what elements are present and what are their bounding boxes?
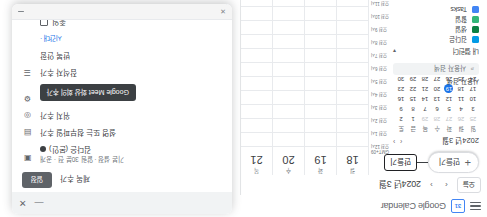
my-calendars-header[interactable]: 내 캘린더 ▾: [393, 47, 479, 57]
day-column[interactable]: 화19: [305, 0, 337, 175]
next-period-icon[interactable]: ›: [427, 181, 436, 190]
calendar-checkbox[interactable]: [472, 37, 479, 44]
mini-cal-dow: 수: [431, 124, 443, 134]
mini-cal-dow: 목: [419, 124, 431, 134]
day-header[interactable]: 월18: [337, 153, 368, 175]
calendar-app: 31 Google Calendar 오늘 ‹ › 2024년 3월 + 만들기…: [240, 0, 487, 217]
day-header[interactable]: 수20: [273, 153, 304, 175]
dialog-row-owner[interactable]: 기본 설정 · 알림 30분 전 · 공개 김다은 (본인) ▣: [22, 144, 222, 164]
create-button-label: 만들기: [439, 157, 460, 168]
mini-cal-day[interactable]: 6: [431, 104, 443, 114]
dialog-row-repeat[interactable]: 반복 안함: [22, 51, 222, 62]
day-header[interactable]: 화19: [305, 153, 336, 175]
mini-cal-day[interactable]: 29: [407, 74, 419, 84]
dialog-row-description[interactable]: 설명 또는 첨부파일 추가 ▤: [22, 127, 222, 138]
mini-cal-day[interactable]: 4: [455, 104, 467, 114]
people-search-heading: 사용자 검색: [447, 77, 479, 87]
mini-cal-day[interactable]: 25: [467, 114, 479, 124]
mini-cal-day[interactable]: 15: [407, 94, 419, 104]
mini-cal-day[interactable]: 23: [395, 84, 407, 94]
mini-cal-day[interactable]: 13: [431, 94, 443, 104]
hamburger-icon[interactable]: [470, 202, 481, 211]
dialog-row-location[interactable]: 위치 추가 ◎: [22, 110, 222, 121]
event-title-input[interactable]: 제목 추가: [60, 175, 90, 186]
mini-cal-day[interactable]: 22: [407, 84, 419, 94]
mini-cal-day[interactable]: 27: [443, 114, 455, 124]
dialog-row-meet[interactable]: Google Meet 화상 회의 추가 ⚙: [22, 85, 222, 105]
dialog-row-timezone[interactable]: 시간대 ·: [22, 34, 222, 45]
day-of-week: 화: [305, 166, 336, 175]
mini-cal-day[interactable]: 28: [431, 114, 443, 124]
google-meet-button[interactable]: Google Meet 화상 회의 추가: [40, 85, 136, 102]
mini-cal-day[interactable]: 26: [455, 114, 467, 124]
mini-prev-icon[interactable]: ‹: [400, 138, 402, 145]
calendar-checkbox[interactable]: [472, 7, 479, 14]
people-search-input[interactable]: ⌕ 사용자 검색: [393, 63, 479, 75]
location-label: 위치 추가: [40, 110, 70, 121]
footer-minimize-icon[interactable]: [18, 11, 24, 13]
close-icon[interactable]: ✕: [19, 199, 27, 208]
calendar-subtoolbar: 오늘 ‹ › 2024년 3월: [240, 175, 487, 195]
time-label: 오전 8시: [371, 40, 387, 46]
owner-sub-text: 기본 설정 · 알림 30분 전 · 공개: [40, 155, 124, 164]
mini-next-icon[interactable]: ›: [393, 138, 395, 145]
mini-cal-day[interactable]: 12: [443, 94, 455, 104]
calendar-list-item[interactable]: 김다은: [393, 35, 479, 45]
mini-cal-day[interactable]: 2: [395, 114, 407, 124]
mini-cal-day[interactable]: 5: [443, 104, 455, 114]
calendar-topbar: 31 Google Calendar: [240, 195, 487, 217]
event-type-tab[interactable]: 일정: [22, 172, 52, 188]
mini-cal-day[interactable]: 28: [419, 74, 431, 84]
calendar-list-item[interactable]: 생일: [393, 25, 479, 35]
mini-cal-dow: 화: [443, 124, 455, 134]
minimize-icon[interactable]: —: [35, 199, 44, 208]
mini-cal-day[interactable]: 3: [467, 104, 479, 114]
calendar-name: 김다은: [449, 35, 467, 45]
day-number: 18: [337, 153, 368, 166]
mini-cal-day[interactable]: 14: [419, 94, 431, 104]
day-of-week: 월: [337, 166, 368, 175]
today-button[interactable]: 오늘: [457, 177, 481, 193]
calendar-list-item[interactable]: 할일: [393, 15, 479, 25]
mini-cal-day[interactable]: 8: [407, 104, 419, 114]
dialog-row-guests[interactable]: 참석자 추가 ☰: [22, 68, 222, 79]
mini-cal-day[interactable]: 21: [419, 84, 431, 94]
owner-name: 김다은 (본인): [49, 144, 91, 155]
day-column[interactable]: 월18: [337, 0, 369, 175]
location-icon: ◎: [22, 110, 33, 121]
mini-cal-day[interactable]: 11: [455, 94, 467, 104]
create-button[interactable]: + 만들기: [428, 152, 479, 173]
time-label: 오전 6시: [371, 66, 387, 72]
day-columns[interactable]: 월18화19수20목21: [241, 0, 369, 175]
calendar-checkbox[interactable]: [472, 17, 479, 24]
calendar-logo-icon: 31: [451, 199, 465, 213]
chevron-down-icon: ▾: [393, 49, 396, 56]
create-button-group: + 만들기 만들기: [384, 152, 479, 173]
dialog-header: — ✕: [12, 192, 232, 214]
radio-selected-icon[interactable]: [40, 147, 46, 153]
prev-period-icon[interactable]: ‹: [442, 181, 451, 190]
mini-cal-day[interactable]: 29: [419, 114, 431, 124]
day-column[interactable]: 수20: [273, 0, 305, 175]
calendar-checkbox[interactable]: [472, 27, 479, 34]
mini-cal-day[interactable]: 16: [395, 94, 407, 104]
repeat-label: 반복 안함: [40, 51, 70, 62]
timezone-link[interactable]: 시간대 ·: [40, 35, 62, 45]
mini-cal-day[interactable]: 30: [395, 74, 407, 84]
mini-cal-day[interactable]: 7: [419, 104, 431, 114]
mini-cal-day[interactable]: 9: [395, 104, 407, 114]
mini-cal-day[interactable]: 1: [407, 114, 419, 124]
mini-cal-day[interactable]: 20: [431, 84, 443, 94]
footer-close-icon[interactable]: ✕: [220, 8, 226, 16]
people-icon: ☰: [22, 68, 33, 79]
mini-cal-day[interactable]: 27: [431, 74, 443, 84]
owner-radio-line[interactable]: 김다은 (본인): [40, 144, 124, 155]
day-column[interactable]: 목21: [241, 0, 273, 175]
mini-calendar-title: 2024년 3월: [442, 136, 479, 147]
time-label: 오전 3시: [371, 105, 387, 111]
mini-cal-day[interactable]: 10: [467, 94, 479, 104]
calendar-list-item[interactable]: Tasks: [393, 5, 479, 15]
guests-label: 참석자 추가: [40, 68, 77, 79]
mini-cal-dow: 월: [455, 124, 467, 134]
day-header[interactable]: 목21: [241, 153, 272, 175]
